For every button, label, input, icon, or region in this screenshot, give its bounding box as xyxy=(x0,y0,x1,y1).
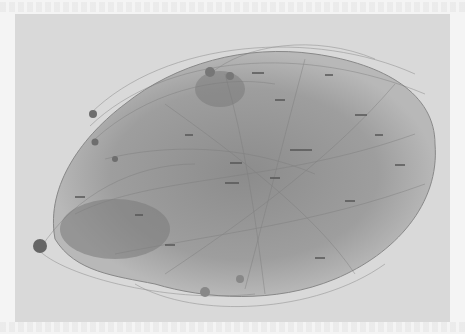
bleed-through-text-bottom xyxy=(0,322,465,332)
node-label xyxy=(355,114,367,116)
node-label xyxy=(225,182,239,184)
bleed-through-text-top xyxy=(0,2,465,12)
node-label xyxy=(275,99,285,101)
node-label xyxy=(375,134,383,136)
node-label xyxy=(345,200,355,202)
node-label xyxy=(75,196,85,198)
node-label xyxy=(135,214,143,216)
network-graph-canvas xyxy=(15,14,450,322)
node-label xyxy=(290,149,312,151)
node-label xyxy=(325,74,333,76)
node-label xyxy=(252,72,264,74)
network-graph-figure xyxy=(15,14,450,322)
node-label xyxy=(395,164,405,166)
node-label xyxy=(185,134,193,136)
node-label xyxy=(315,257,325,259)
node-label xyxy=(270,177,280,179)
node-label xyxy=(165,244,175,246)
node-label xyxy=(230,162,242,164)
